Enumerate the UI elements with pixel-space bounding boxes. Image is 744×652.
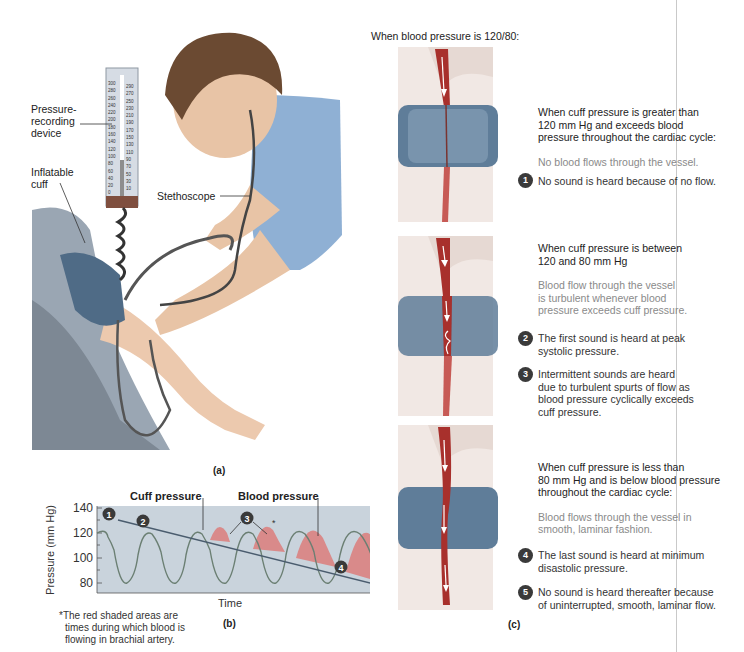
item-line: The last sound is heard at minimum [538, 549, 704, 562]
scale-tick: 40 [108, 175, 116, 182]
scale-tick: 290 [126, 83, 134, 90]
label-line: device [31, 127, 77, 139]
scale-tick: 10 [126, 185, 134, 192]
badge-3: 3 [518, 367, 533, 382]
scale-tick: 130 [126, 141, 134, 148]
vessel-illustration-laminar [398, 425, 498, 614]
item-2-text: The first sound is heard at peak systoli… [538, 332, 685, 357]
scale-tick: 190 [126, 119, 134, 126]
panel-c-caption: (c) [508, 619, 520, 630]
scale-tick: 120 [108, 146, 116, 153]
label-line: Inflatable [31, 166, 74, 178]
heading-line: 120 and 80 mm Hg [538, 255, 738, 268]
item-line: blood pressure cyclically exceeds [538, 393, 694, 406]
item-1-text: No sound is heard because of no flow. [538, 175, 716, 188]
ytick-140: 140 [73, 501, 93, 515]
scale-tick: 140 [108, 138, 116, 145]
panel-a-caption: (a) [213, 465, 225, 476]
item-line: cuff pressure. [538, 406, 694, 419]
scale-tick: 300 [108, 80, 116, 87]
heading-line: When cuff pressure is greater than [538, 106, 738, 119]
description-line: Blood flows through the vessel in [538, 511, 744, 524]
scale-tick: 30 [126, 178, 134, 185]
label-line: Pressure- [31, 103, 77, 115]
description-line: Blood flow through the vessel [538, 279, 738, 292]
section-cuff-below-80: When cuff pressure is less than 80 mm Hg… [538, 461, 744, 536]
item-line: No sound is heard thereafter because [538, 586, 716, 599]
vessel-illustration-no-flow [398, 47, 498, 226]
scale-tick: 260 [108, 95, 116, 102]
scale-tick: 100 [108, 153, 116, 160]
item-line: The first sound is heard at peak [538, 332, 685, 345]
heading-line: throughout the cardiac cycle: [538, 486, 744, 499]
x-axis-label: Time [218, 597, 242, 609]
heading-line: When cuff pressure is less than [538, 461, 744, 474]
item-3-text: Intermittent sounds are heard due to tur… [538, 368, 694, 418]
scale-tick: 180 [108, 124, 116, 131]
scale-tick: 220 [108, 109, 116, 116]
scale-tick: 170 [126, 127, 134, 134]
scale-tick: 200 [108, 116, 116, 123]
item-5-text: No sound is heard thereafter because of … [538, 586, 716, 611]
description-line: No blood flows through the vessel. [538, 156, 738, 169]
inflatable-cuff-label: Inflatable cuff [31, 166, 74, 190]
footnote-line: times during which blood is [59, 622, 185, 634]
svg-text:4: 4 [338, 563, 343, 573]
pressure-chart: 140 120 100 80 Pressure (mm Hg) * 1 2 3 … [40, 490, 370, 600]
ytick-100: 100 [73, 551, 93, 565]
section-description: Blood flow through the vessel is turbule… [538, 279, 738, 317]
description-line: smooth, laminar fashion. [538, 523, 744, 536]
section-heading: When cuff pressure is greater than 120 m… [538, 106, 738, 144]
section-cuff-between-120-80: When cuff pressure is between 120 and 80… [538, 242, 738, 317]
stethoscope-label: Stethoscope [157, 190, 215, 202]
label-line: recording [31, 115, 77, 127]
scale-tick: 70 [126, 163, 134, 170]
heading-line: When cuff pressure is between [538, 242, 738, 255]
footnote-line: *The red shaded areas are [59, 610, 185, 622]
bp-measurement-illustration [0, 0, 370, 450]
scale-tick: 50 [126, 171, 134, 178]
asterisk-marker: * [272, 518, 276, 528]
item-line: due to turbulent spurts of flow as [538, 381, 694, 394]
panel-c-intro: When blood pressure is 120/80: [371, 30, 519, 42]
badge-5: 5 [518, 585, 533, 600]
scale-tick: 270 [126, 90, 134, 97]
badge-1: 1 [518, 173, 533, 188]
panel-b-caption: (b) [223, 618, 236, 629]
description-line: pressure exceeds cuff pressure. [538, 304, 738, 317]
svg-text:3: 3 [244, 514, 249, 524]
section-description: No blood flows through the vessel. [538, 156, 738, 169]
description-line: is turbulent whenever blood [538, 292, 738, 305]
heading-line: 120 mm Hg and exceeds blood [538, 119, 738, 132]
item-line: Intermittent sounds are heard [538, 368, 694, 381]
svg-text:1: 1 [106, 510, 111, 520]
footnote-line: flowing in brachial artery. [59, 634, 185, 646]
scale-tick: 160 [108, 131, 116, 138]
scale-tick: 110 [126, 149, 134, 156]
scale-tick: 240 [108, 102, 116, 109]
scale-tick: 20 [108, 182, 116, 189]
scale-tick: 210 [126, 112, 134, 119]
chart-footnote: *The red shaded areas are times during w… [59, 610, 185, 646]
section-heading: When cuff pressure is less than 80 mm Hg… [538, 461, 744, 499]
scale-tick: 90 [126, 156, 134, 163]
ytick-80: 80 [80, 576, 94, 590]
y-axis-label: Pressure (mm Hg) [44, 505, 56, 595]
pressure-device-label: Pressure- recording device [31, 103, 77, 139]
scale-tick: 280 [108, 87, 116, 94]
badge-4: 4 [518, 548, 533, 563]
scale-tick: 60 [108, 168, 116, 175]
scale-tick: 80 [108, 160, 116, 167]
section-description: Blood flows through the vessel in smooth… [538, 511, 744, 536]
scale-tick: 0 [108, 189, 116, 196]
item-line: disastolic pressure. [538, 562, 704, 575]
label-line: cuff [31, 178, 74, 190]
panel-a-illustration [0, 0, 370, 450]
item-4-text: The last sound is heard at minimum disas… [538, 549, 704, 574]
heading-line: 80 mm Hg and is below blood pressure [538, 474, 744, 487]
section-heading: When cuff pressure is between 120 and 80… [538, 242, 738, 267]
scale-tick: 250 [126, 98, 134, 105]
ytick-120: 120 [73, 526, 93, 540]
scale-tick: 150 [126, 134, 134, 141]
svg-text:2: 2 [140, 517, 145, 527]
